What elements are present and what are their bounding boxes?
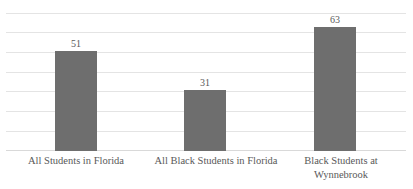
chart-title — [0, 0, 413, 3]
bar-all-black-students-in-florida[interactable] — [184, 90, 226, 151]
category-axis: All Students in Florida All Black Studen… — [6, 154, 406, 189]
value-label-all-students-in-florida: 51 — [45, 38, 107, 50]
category-label-all-black-students-in-florida: All Black Students in Florida — [136, 154, 296, 168]
plot-area: 51 31 63 — [6, 13, 406, 151]
bar-black-students-at-wynnebrook[interactable] — [314, 27, 356, 151]
bar-all-students-in-florida[interactable] — [55, 51, 97, 151]
value-label-black-students-at-wynnebrook: 63 — [304, 14, 366, 26]
category-label-line: Wynnebrook — [276, 168, 406, 182]
category-label-black-students-at-wynnebrook: Black Students at Wynnebrook — [276, 154, 406, 182]
value-label-all-black-students-in-florida: 31 — [174, 77, 236, 89]
bar-chart: 51 31 63 All Students in Florida All Bla… — [0, 0, 413, 189]
category-label-all-students-in-florida: All Students in Florida — [6, 154, 146, 168]
category-label-line: Black Students at — [276, 154, 406, 168]
category-label-line: All Students in Florida — [6, 154, 146, 168]
category-label-line: All Black Students in Florida — [136, 154, 296, 168]
